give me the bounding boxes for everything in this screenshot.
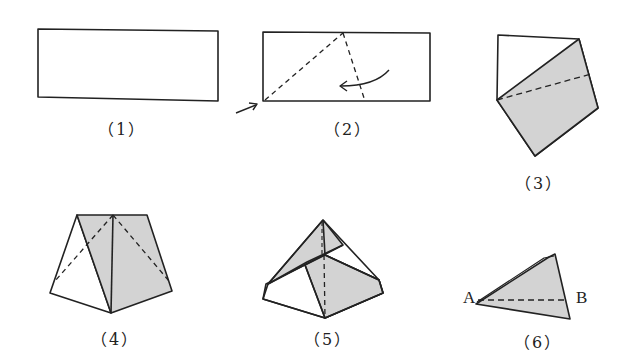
fig1-rectangle (38, 29, 218, 101)
step-label-1: （1） (98, 116, 146, 140)
step-label-3: （3） (515, 170, 563, 194)
point-label-a: A (463, 288, 475, 308)
step-label-4: （4） (91, 326, 139, 350)
step-label-6: （6） (514, 329, 562, 353)
point-label-b: B (576, 288, 587, 308)
step-label-2: （2） (324, 116, 372, 140)
fig6-shaded-triangle (476, 254, 570, 319)
step-label-5: （5） (304, 326, 352, 350)
